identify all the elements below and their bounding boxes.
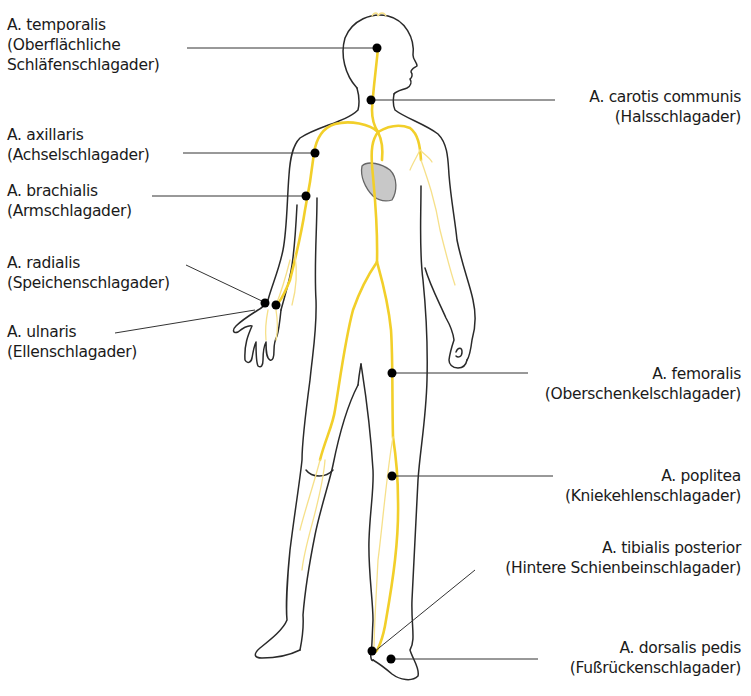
label-name: A. brachialis [7,181,132,201]
label-brachialis: A. brachialis (Armschlagader) [7,181,132,221]
label-name: A. temporalis [7,15,159,35]
label-name: A. carotis communis [589,87,741,107]
label-femoralis: A. femoralis (Oberschenkelschlagader) [545,364,741,404]
label-german: (Oberflächliche [7,35,159,55]
pulse-point-ulnaris [272,301,281,310]
label-german: (Fußrückenschlagader) [570,658,741,678]
label-german: (Oberschenkelschlagader) [545,384,741,404]
pulse-point-dorsalis [387,655,396,664]
pulse-point-temporalis [373,44,382,53]
label-carotis: A. carotis communis (Halsschlagader) [589,87,741,127]
label-german: (Hintere Schienbeinschlagader) [505,558,741,578]
label-german: (Ellenschlagader) [7,342,137,362]
label-german: Schläfenschlagader) [7,55,159,75]
label-name: A. poplitea [565,466,741,486]
leader-lines [115,48,555,659]
pulse-point-axillaris [311,149,320,158]
label-name: A. tibialis posterior [505,538,741,558]
label-name: A. radialis [7,253,170,273]
label-name: A. ulnaris [7,322,137,342]
label-temporalis: A. temporalis (Oberflächliche Schläfensc… [7,15,159,75]
pulse-point-poplitea [388,472,397,481]
label-ulnaris: A. ulnaris (Ellenschlagader) [7,322,137,362]
label-german: (Kniekehlenschlagader) [565,486,741,506]
label-poplitea: A. poplitea (Kniekehlenschlagader) [565,466,741,506]
label-name: A. axillaris [7,125,150,145]
heart-icon [362,163,396,201]
label-name: A. dorsalis pedis [570,638,741,658]
pulse-point-tibialis [368,647,377,656]
label-german: (Speichenschlagader) [7,273,170,293]
arterial-pulse-points-diagram: A. temporalis (Oberflächliche Schläfensc… [0,0,751,696]
label-german: (Achselschlagader) [7,145,150,165]
pulse-point-femoralis [388,369,397,378]
label-german: (Halsschlagader) [589,107,741,127]
label-dorsalis: A. dorsalis pedis (Fußrückenschlagader) [570,638,741,678]
label-german: (Armschlagader) [7,201,132,221]
label-tibialis: A. tibialis posterior (Hintere Schienbei… [505,538,741,578]
pulse-point-brachialis [302,192,311,201]
label-name: A. femoralis [545,364,741,384]
pulse-point-radialis [261,299,270,308]
label-radialis: A. radialis (Speichenschlagader) [7,253,170,293]
body-outline [234,15,476,680]
pulse-point-carotis [367,96,376,105]
label-axillaris: A. axillaris (Achselschlagader) [7,125,150,165]
